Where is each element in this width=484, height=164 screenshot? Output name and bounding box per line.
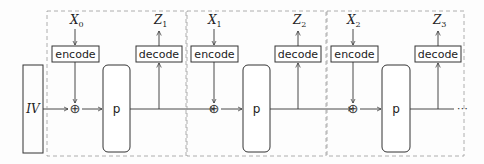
xor-2: ⊕: [209, 101, 220, 116]
iv-label: IV: [25, 102, 41, 116]
input-x1: X1: [207, 13, 222, 29]
diagram-canvas: IV X0 encode ⊕ p decode Z1 X1 encode ⊕ p: [0, 0, 484, 164]
decode-label-2: decode: [278, 48, 319, 61]
xor-3: ⊕: [348, 101, 359, 116]
input-x0: X0: [69, 13, 84, 29]
iv-block: IV: [23, 65, 43, 153]
xor-1: ⊕: [70, 101, 81, 116]
stage-1: X0 encode ⊕ p decode Z1: [47, 11, 214, 156]
perm-label-3: p: [392, 102, 400, 116]
input-x2: X2: [346, 13, 361, 29]
output-z1: Z1: [153, 13, 167, 29]
decode-label-1: decode: [139, 48, 180, 61]
stage-3: X2 encode ⊕ p decode Z3 ⋯: [327, 11, 468, 156]
output-z2: Z2: [292, 13, 306, 29]
output-z3: Z3: [432, 13, 446, 29]
encode-label-3: encode: [334, 48, 374, 61]
continuation-dots: ⋯: [457, 102, 468, 115]
decode-label-3: decode: [418, 48, 459, 61]
perm-label-1: p: [113, 102, 121, 116]
encode-label-1: encode: [55, 48, 95, 61]
perm-label-2: p: [253, 102, 261, 116]
encode-label-2: encode: [194, 48, 234, 61]
